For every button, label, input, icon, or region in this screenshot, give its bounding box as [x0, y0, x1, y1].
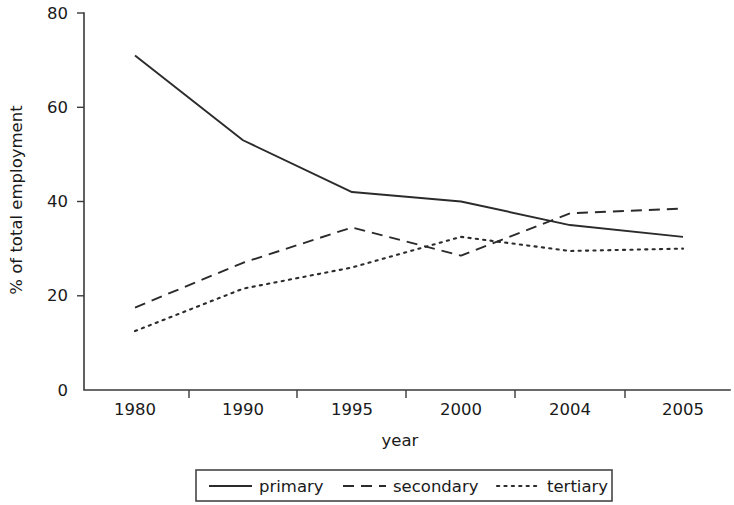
x-tick-label-1995: 1995 — [331, 400, 373, 419]
x-tick-label-2004: 2004 — [549, 400, 591, 419]
legend-label-tertiary: tertiary — [547, 477, 608, 496]
y-tick-label-80: 80 — [47, 4, 68, 23]
x-axis-labels: 1980 1990 1995 2000 2004 2005 — [114, 400, 704, 419]
series-group — [135, 55, 683, 331]
y-tick-label-60: 60 — [47, 98, 68, 117]
x-tick-label-1980: 1980 — [114, 400, 156, 419]
x-tick-label-1990: 1990 — [222, 400, 264, 419]
chart-figure: % of total employment 80 60 40 20 0 1980 — [0, 0, 734, 505]
x-tick-label-2000: 2000 — [440, 400, 482, 419]
series-line-secondary — [135, 209, 683, 308]
chart-legend: primary secondary tertiary — [196, 470, 612, 501]
series-line-primary — [135, 55, 683, 236]
series-line-tertiary — [135, 237, 683, 331]
axis-lines — [84, 13, 730, 390]
legend-label-secondary: secondary — [393, 477, 479, 496]
x-axis-ticks — [189, 390, 625, 398]
y-tick-label-0: 0 — [58, 381, 69, 400]
y-axis-title: % of total employment — [7, 105, 26, 295]
x-tick-label-2005: 2005 — [662, 400, 704, 419]
y-tick-label-40: 40 — [47, 192, 68, 211]
x-axis-title: year — [382, 431, 419, 450]
y-axis-ticks: 80 60 40 20 0 — [47, 4, 84, 400]
legend-label-primary: primary — [259, 477, 324, 496]
y-tick-label-20: 20 — [47, 286, 68, 305]
line-chart-svg: % of total employment 80 60 40 20 0 1980 — [0, 0, 734, 505]
